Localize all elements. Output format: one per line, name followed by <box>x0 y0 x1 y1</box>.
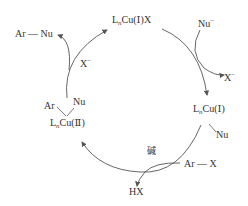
reagent-ar-x: Ar — X <box>184 158 217 169</box>
reagent-base: 碱 <box>147 146 156 157</box>
species-cu2: LnCu(Ⅱ) <box>50 117 85 132</box>
reagent-hx: HX <box>129 186 143 197</box>
reagent-x-in-left: X− <box>80 56 91 69</box>
reagent-nu-in: Nu− <box>198 16 214 29</box>
species-cu2-ligand-ar: Ar <box>44 100 55 111</box>
reagent-x-out-right: X− <box>224 70 235 83</box>
species-cu1-nu: LnCu(Ⅰ) <box>193 103 225 118</box>
product-ar-nu: Ar — Nu <box>15 28 53 39</box>
species-cu2-ligand-nu: Nu <box>73 96 85 107</box>
species-cu1-nu-ligand: Nu <box>216 129 228 140</box>
species-cu1x: LnCu(Ⅰ)X <box>112 14 151 29</box>
